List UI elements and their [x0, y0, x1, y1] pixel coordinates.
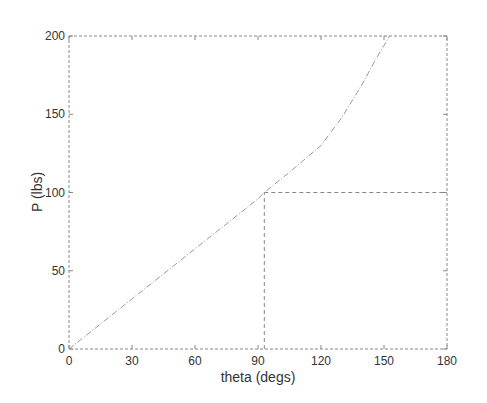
x-tick-label: 90 — [251, 354, 265, 368]
data-series — [69, 36, 389, 349]
y-tick-label: 0 — [58, 342, 65, 356]
reference-lines — [264, 193, 447, 350]
y-axis-label: P (lbs) — [29, 172, 45, 212]
curve-line — [69, 36, 389, 349]
chart: 0306090120150180 050100150200 theta (deg… — [0, 0, 487, 403]
x-tick-label: 0 — [66, 354, 73, 368]
x-axis-label: theta (degs) — [221, 369, 296, 385]
y-tick-label: 100 — [45, 186, 65, 200]
x-tick-label: 180 — [437, 354, 457, 368]
x-tick-label: 60 — [188, 354, 202, 368]
x-tick-label: 120 — [311, 354, 331, 368]
y-tick-label: 200 — [45, 29, 65, 43]
y-tick-label: 150 — [45, 107, 65, 121]
x-axis-ticks: 0306090120150180 — [66, 36, 458, 368]
y-tick-label: 50 — [52, 264, 66, 278]
x-tick-label: 30 — [125, 354, 139, 368]
x-tick-label: 150 — [374, 354, 394, 368]
